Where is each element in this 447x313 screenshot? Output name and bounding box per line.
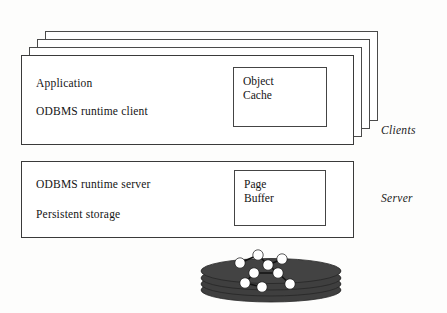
disk-platter-stack	[196, 243, 346, 305]
server-line-runtime: ODBMS runtime server	[36, 177, 151, 191]
clients-group-label: Clients	[381, 124, 416, 136]
object-node	[249, 268, 259, 278]
client-line-runtime: ODBMS runtime client	[36, 104, 148, 118]
server-group-label: Server	[381, 192, 413, 204]
diagram-canvas: Application ODBMS runtime client Object …	[0, 0, 447, 313]
object-node	[285, 279, 295, 289]
object-node	[253, 250, 263, 260]
page-buffer-label-line1: Page	[244, 177, 266, 192]
object-node	[263, 260, 273, 270]
object-cache-label-line1: Object	[243, 74, 274, 89]
object-cache-label-line2: Cache	[243, 88, 272, 103]
object-node	[277, 254, 287, 264]
page-buffer-label-line2: Buffer	[244, 191, 274, 206]
object-node	[240, 278, 250, 288]
object-node	[273, 268, 283, 278]
object-node	[235, 258, 245, 268]
server-line-storage: Persistent storage	[36, 207, 120, 221]
client-line-application: Application	[36, 76, 93, 90]
object-node	[257, 282, 267, 292]
